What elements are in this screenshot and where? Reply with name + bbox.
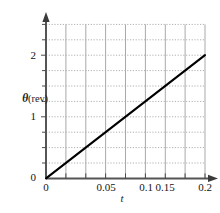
- graph-figure: θ(rev) t 2 1 0 0 0.05 0.1 0.15 0.2: [0, 0, 220, 213]
- x-axis-label: t: [104, 192, 140, 204]
- y-tick-label-2: 2: [22, 50, 36, 61]
- x-tick-label-0-15: 0.15: [144, 182, 186, 193]
- y-axis-label: θ(rev): [2, 92, 48, 105]
- y-axis-label-units: (rev): [28, 93, 48, 104]
- y-tick-label-1: 1: [22, 111, 36, 122]
- x-tick-label-0-2: 0.2: [189, 182, 220, 193]
- x-tick-label-0-05: 0.05: [85, 182, 127, 193]
- y-axis-arrow-icon: [42, 12, 49, 22]
- x-tick-label-0: 0: [38, 182, 54, 193]
- y-tick-label-0: 0: [22, 172, 36, 183]
